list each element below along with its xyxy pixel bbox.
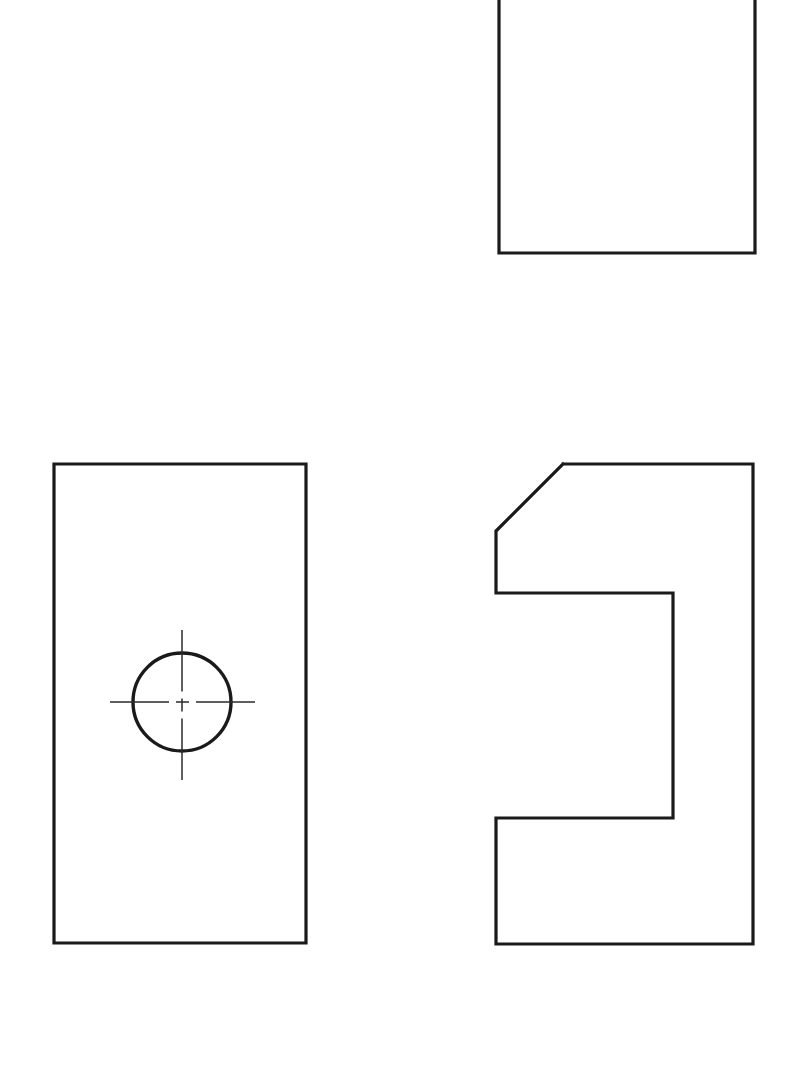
drawing-canvas (0, 0, 798, 1077)
sheet-background (0, 0, 798, 1077)
drawing-sheet (0, 0, 798, 1077)
